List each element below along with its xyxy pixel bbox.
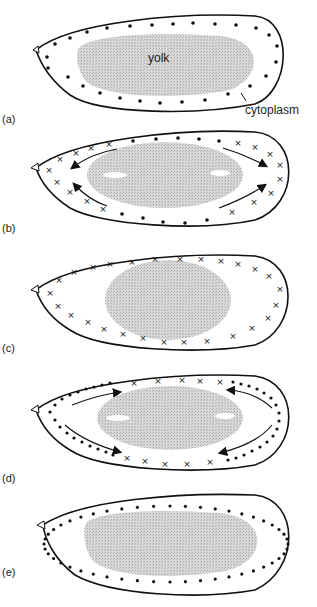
svg-text:×: × (105, 139, 113, 149)
svg-text:×: × (84, 317, 92, 327)
svg-text:×: × (56, 154, 64, 164)
embryo-diagram: ×××× ×××× ×××× ×××× × ×××× ×××× ×××× ×××… (0, 0, 317, 607)
svg-text:×: × (141, 456, 149, 466)
svg-text:×: × (276, 174, 284, 184)
svg-text:×: × (154, 376, 162, 386)
svg-text:×: × (183, 459, 191, 469)
panel-b: ×××× ×××× ×××× ×××× × (31, 131, 289, 226)
panel-d: ××××× ××××× (31, 375, 289, 470)
svg-text:×: × (139, 333, 147, 343)
svg-text:×: × (196, 376, 204, 386)
svg-text:×: × (55, 275, 63, 285)
svg-text:×: × (128, 257, 136, 267)
svg-text:×: × (234, 259, 242, 269)
svg-text:×: × (87, 143, 95, 153)
panel-e (37, 494, 290, 595)
svg-text:×: × (267, 188, 275, 198)
panel-label-c: (c) (2, 342, 15, 354)
svg-text:×: × (178, 375, 186, 385)
svg-text:×: × (250, 197, 258, 207)
svg-text:×: × (206, 457, 214, 467)
svg-text:×: × (265, 271, 273, 281)
svg-text:×: × (67, 310, 75, 320)
svg-text:×: × (45, 165, 53, 175)
micropyle (33, 46, 39, 53)
svg-text:×: × (53, 177, 61, 187)
svg-text:×: × (89, 262, 97, 272)
svg-text:×: × (180, 337, 188, 347)
svg-text:×: × (203, 336, 211, 346)
svg-text:×: × (123, 453, 131, 463)
svg-text:×: × (197, 254, 205, 264)
svg-text:×: × (264, 313, 272, 323)
svg-text:×: × (228, 207, 236, 217)
svg-text:×: × (66, 187, 74, 197)
yolk-label: yolk (148, 51, 169, 65)
svg-text:×: × (266, 149, 274, 159)
svg-text:×: × (54, 301, 62, 311)
svg-text:×: × (229, 331, 237, 341)
panel-c: ×××× ×××× ×××× ×××× ×××× ×××× ××× (31, 254, 288, 350)
svg-text:×: × (251, 142, 259, 152)
yolk-region (84, 511, 257, 576)
svg-text:×: × (276, 284, 284, 294)
panel-label-d: (d) (2, 472, 15, 484)
svg-text:×: × (72, 148, 80, 158)
svg-text:×: × (106, 259, 114, 269)
svg-text:×: × (276, 160, 284, 170)
svg-text:×: × (100, 324, 108, 334)
svg-text:×: × (176, 254, 184, 264)
svg-text:×: × (216, 377, 224, 387)
svg-text:×: × (160, 337, 168, 347)
yolk-region (105, 260, 231, 340)
svg-text:×: × (234, 138, 242, 148)
panel-label-a: (a) (2, 113, 15, 125)
svg-text:×: × (70, 267, 78, 277)
svg-text:×: × (119, 329, 127, 339)
svg-text:×: × (151, 254, 159, 264)
svg-text:×: × (272, 300, 280, 310)
panel-label-e: (e) (2, 566, 15, 578)
cytoplasm-label: cytoplasm (245, 103, 299, 117)
svg-text:×: × (248, 323, 256, 333)
svg-text:×: × (130, 378, 138, 388)
svg-text:×: × (251, 264, 259, 274)
panel-label-b: (b) (2, 222, 15, 234)
svg-text:×: × (217, 256, 225, 266)
svg-text:×: × (46, 288, 54, 298)
svg-text:×: × (161, 459, 169, 469)
